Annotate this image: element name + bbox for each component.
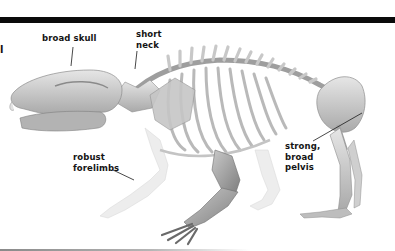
mandible bbox=[20, 111, 106, 131]
label-short-neck: short neck bbox=[136, 29, 162, 50]
label-broad-skull: broad skull bbox=[42, 33, 97, 44]
skull-leader bbox=[71, 47, 73, 66]
neck-leader bbox=[135, 51, 137, 69]
far-hindlimb bbox=[250, 150, 280, 210]
skull bbox=[10, 70, 122, 131]
far-forelimb bbox=[100, 128, 168, 218]
forepaw-claws bbox=[162, 224, 197, 244]
label-strong-broad-pelvis: strong, broad pelvis bbox=[285, 141, 320, 173]
near-forelimb bbox=[162, 150, 240, 244]
scapula bbox=[150, 78, 195, 130]
label-robust-forelimbs: robust forelimbs bbox=[73, 152, 119, 173]
